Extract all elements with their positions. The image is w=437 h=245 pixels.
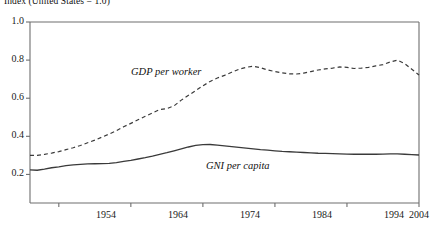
series-line-gni-per-capita [30,145,419,171]
axis-frame [30,22,419,203]
chart-container: Index (United States = 1.0) 1.0 0.8 0.6 … [0,0,437,245]
y-axis-ticks [26,22,30,174]
plot-area [0,0,437,245]
x-axis-ticks [59,203,419,207]
series-line-gdp-per-worker [30,60,419,155]
